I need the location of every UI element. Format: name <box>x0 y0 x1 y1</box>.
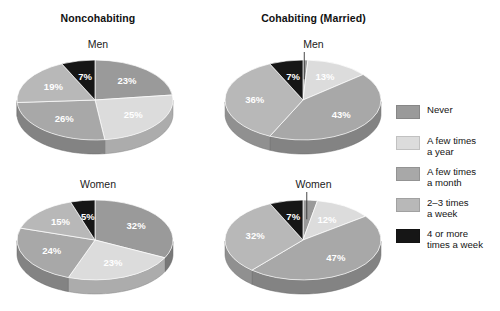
legend-swatch-four-or-more-week <box>396 229 420 243</box>
pie-slice-label: 36% <box>245 94 265 105</box>
legend-item-few-times-month: A few times a month <box>396 166 483 190</box>
pie-chart-cohabiting-women: 3%12%47%32%7% <box>218 192 398 304</box>
legend-label-few-times-month: A few times a month <box>427 166 476 188</box>
pie-slice-label: 13% <box>315 71 335 82</box>
pie-chart-noncohabiting-women: 32%23%24%15%5% <box>10 192 190 304</box>
legend-swatch-never <box>396 105 420 119</box>
pie-slice-label: 19% <box>44 81 64 92</box>
legend-label-never: Never <box>427 104 453 115</box>
pie-slice-label: 15% <box>51 216 71 227</box>
pie-slice-label: 12% <box>318 214 338 225</box>
legend-label-four-or-more-week: 4 or more times a week <box>427 228 483 250</box>
subtitle-noncohabiting-women: Women <box>18 178 178 190</box>
legend-swatch-few-times-month <box>396 167 420 181</box>
pie-chart-cohabiting-men: 1%13%43%36%7% <box>218 52 398 164</box>
legend-item-few-times-year: A few times a year <box>396 135 483 159</box>
legend-label-two-three-week: 2–3 times a week <box>427 197 469 219</box>
pie-slice-label: 5% <box>81 211 95 222</box>
pie-slice-label: 23% <box>103 257 123 268</box>
legend: Never A few times a year A few times a m… <box>396 104 483 259</box>
legend-item-four-or-more-week: 4 or more times a week <box>396 228 483 252</box>
pie-slice-label: 47% <box>326 252 346 263</box>
panel-title-noncohabiting: Noncohabiting <box>18 12 178 24</box>
subtitle-noncohabiting-men: Men <box>18 38 178 50</box>
pie-slice-label: 7% <box>286 71 300 82</box>
legend-label-few-times-year: A few times a year <box>427 135 476 157</box>
pie-slice-label: 26% <box>55 113 75 124</box>
subtitle-cohabiting-women: Women <box>226 178 401 190</box>
legend-swatch-two-three-week <box>396 198 420 212</box>
pie-slice-label: 25% <box>124 109 144 120</box>
legend-item-two-three-week: 2–3 times a week <box>396 197 483 221</box>
pie-chart-noncohabiting-men: 23%25%26%19%7% <box>10 52 190 164</box>
legend-swatch-few-times-year <box>396 136 420 150</box>
pie-slice-label: 32% <box>246 230 266 241</box>
legend-item-never: Never <box>396 104 483 128</box>
pie-slice-label: 24% <box>42 245 62 256</box>
pie-slice-label: 7% <box>286 211 300 222</box>
pie-slice-label: 7% <box>78 71 92 82</box>
panel-title-cohabiting: Cohabiting (Married) <box>226 12 401 24</box>
subtitle-cohabiting-men: Men <box>226 38 401 50</box>
pie-slice-label: 43% <box>332 109 352 120</box>
pie-slice-label: 23% <box>117 75 137 86</box>
pie-slice-label: 32% <box>127 220 147 231</box>
